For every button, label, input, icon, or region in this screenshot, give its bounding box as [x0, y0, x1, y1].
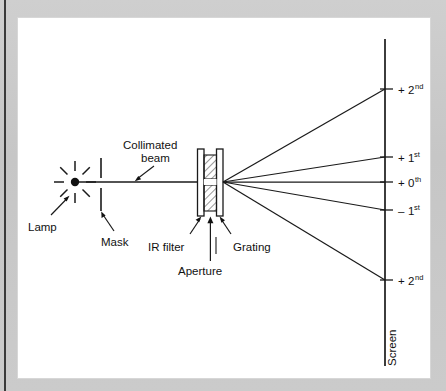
order-label-minus-2nd: + 2 nd	[398, 273, 423, 287]
aperture-gap	[204, 179, 217, 185]
screen-ticks	[380, 89, 393, 280]
left-edge-rule	[4, 0, 6, 391]
svg-text:2: 2	[408, 275, 414, 287]
ray-minus-2nd	[223, 182, 385, 280]
aperture-block-upper	[204, 155, 217, 179]
svg-text:+: +	[398, 177, 405, 189]
optics-assembly	[198, 149, 224, 216]
grating-frame	[217, 149, 224, 216]
aperture-leader	[207, 217, 213, 261]
collimated-beam-label-line1: Collimated	[123, 139, 177, 151]
collimated-beam-leader	[135, 166, 154, 181]
screen-label: Screen	[386, 330, 398, 366]
collimated-beam-label-line2: beam	[141, 152, 170, 164]
mask-leader	[101, 212, 114, 232]
svg-text:–: –	[398, 205, 405, 217]
order-label-plus-2nd: + 2 nd	[398, 82, 423, 96]
svg-text:+: +	[398, 152, 405, 164]
ray-plus-1st	[223, 157, 385, 182]
svg-text:+: +	[398, 84, 405, 96]
lamp-label: Lamp	[28, 221, 57, 233]
svg-text:+: +	[398, 275, 405, 287]
svg-text:st: st	[414, 203, 421, 212]
lamp-bulb-icon	[71, 178, 79, 186]
mask-label: Mask	[101, 236, 129, 248]
ir-filter-leader	[190, 217, 201, 234]
ir-filter-label: IR filter	[148, 241, 185, 253]
svg-text:2: 2	[408, 84, 414, 96]
svg-text:nd: nd	[415, 82, 423, 91]
order-label-zeroth: + 0 th	[398, 175, 421, 189]
aperture-label: Aperture	[178, 265, 222, 277]
svg-text:st: st	[414, 150, 421, 159]
svg-text:th: th	[415, 175, 421, 184]
figure-page: Lamp Mask Collimated beam	[0, 0, 446, 391]
svg-text:nd: nd	[415, 273, 423, 282]
ir-filter-frame	[198, 149, 205, 216]
svg-text:0: 0	[408, 177, 414, 189]
order-label-plus-1st: + 1 st	[398, 150, 421, 164]
grating-leader	[220, 217, 231, 234]
lamp-leader	[51, 196, 70, 215]
aperture-block-lower	[204, 185, 217, 211]
grating-label: Grating	[233, 241, 271, 253]
ray-plus-2nd	[223, 89, 385, 182]
order-label-minus-1st: – 1 st	[398, 203, 421, 217]
diagram-canvas: Lamp Mask Collimated beam	[18, 18, 430, 378]
